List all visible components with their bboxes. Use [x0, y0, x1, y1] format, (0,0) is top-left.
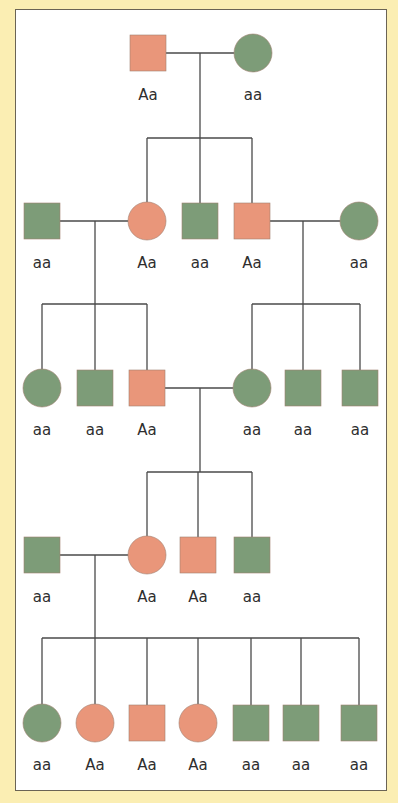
individual-III-5-male: aa	[285, 370, 321, 439]
male-square-icon	[285, 370, 321, 406]
individual-V-7-male: aa	[341, 705, 377, 774]
individual-V-4-female: Aa	[179, 704, 217, 774]
male-square-icon	[341, 705, 377, 741]
individual-V-3-male: Aa	[129, 705, 165, 774]
genotype-label: Aa	[137, 756, 156, 774]
genotype-label: aa	[350, 756, 368, 774]
individual-V-2-female: Aa	[76, 704, 114, 774]
individual-II-1-male: aa	[24, 203, 60, 272]
female-circle-icon	[23, 704, 61, 742]
female-circle-icon	[128, 536, 166, 574]
individual-V-1-female: aa	[23, 704, 61, 774]
genotype-label: aa	[244, 86, 262, 104]
genotype-label: Aa	[85, 756, 104, 774]
genotype-label: aa	[292, 756, 310, 774]
individual-IV-1-male: aa	[24, 537, 60, 606]
genotype-label: Aa	[242, 254, 261, 272]
genotype-label: Aa	[137, 254, 156, 272]
male-square-icon	[342, 370, 378, 406]
individual-II-2-female: Aa	[128, 202, 166, 272]
male-square-icon	[24, 537, 60, 573]
male-square-icon	[283, 705, 319, 741]
individual-I-1-male: Aa	[130, 35, 166, 104]
individual-II-5-female: aa	[340, 202, 378, 272]
individual-V-5-male: aa	[233, 705, 269, 774]
genotype-label: aa	[86, 421, 104, 439]
female-circle-icon	[234, 34, 272, 72]
genotype-label: Aa	[137, 421, 156, 439]
genotype-label: Aa	[138, 86, 157, 104]
male-square-icon	[129, 705, 165, 741]
male-square-icon	[24, 203, 60, 239]
male-square-icon	[233, 705, 269, 741]
individual-I-2-female: aa	[234, 34, 272, 104]
genotype-label: aa	[191, 254, 209, 272]
genotype-label: aa	[351, 421, 369, 439]
genotype-label: Aa	[188, 756, 207, 774]
pedigree-chart: AaaaaaAaaaAaaaaaaaAaaaaaaaaaAaAaaaaaAaAa…	[0, 0, 398, 803]
male-square-icon	[129, 370, 165, 406]
genotype-label: aa	[33, 756, 51, 774]
individual-III-3-male: Aa	[129, 370, 165, 439]
individual-IV-4-male: aa	[234, 537, 270, 606]
individual-III-4-female: aa	[233, 369, 271, 439]
individual-II-3-male: aa	[182, 203, 218, 272]
female-circle-icon	[76, 704, 114, 742]
individual-II-4-male: Aa	[234, 203, 270, 272]
male-square-icon	[130, 35, 166, 71]
genotype-label: aa	[242, 756, 260, 774]
genotype-label: Aa	[137, 588, 156, 606]
genotype-label: aa	[33, 421, 51, 439]
individual-V-6-male: aa	[283, 705, 319, 774]
male-square-icon	[234, 203, 270, 239]
genotype-label: aa	[243, 421, 261, 439]
male-square-icon	[234, 537, 270, 573]
female-circle-icon	[233, 369, 271, 407]
female-circle-icon	[340, 202, 378, 240]
genotype-label: Aa	[188, 588, 207, 606]
genotype-label: aa	[33, 254, 51, 272]
female-circle-icon	[179, 704, 217, 742]
female-circle-icon	[23, 369, 61, 407]
male-square-icon	[182, 203, 218, 239]
genotype-label: aa	[33, 588, 51, 606]
genotype-label: aa	[294, 421, 312, 439]
genotype-label: aa	[350, 254, 368, 272]
individual-IV-3-male: Aa	[180, 537, 216, 606]
individual-III-1-female: aa	[23, 369, 61, 439]
individual-III-2-male: aa	[77, 370, 113, 439]
female-circle-icon	[128, 202, 166, 240]
individual-III-6-male: aa	[342, 370, 378, 439]
male-square-icon	[77, 370, 113, 406]
individual-IV-2-female: Aa	[128, 536, 166, 606]
genotype-label: aa	[243, 588, 261, 606]
male-square-icon	[180, 537, 216, 573]
